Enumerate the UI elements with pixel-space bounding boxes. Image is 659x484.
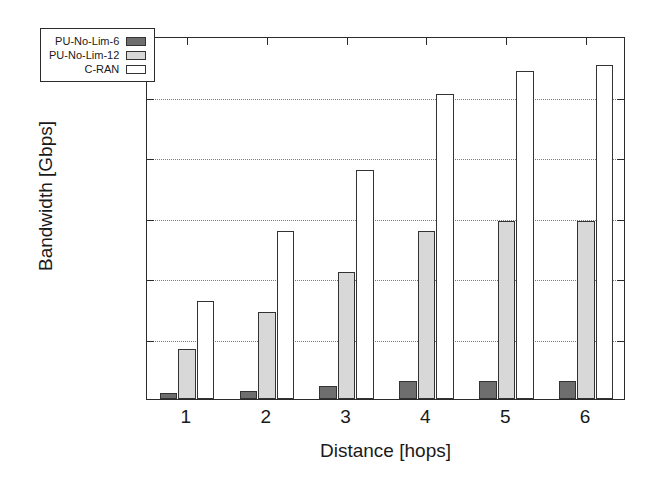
bar bbox=[516, 71, 534, 399]
y-axis-title: Bandwidth [Gbps] bbox=[35, 76, 57, 316]
y-axis-tick bbox=[147, 159, 154, 160]
bar bbox=[418, 231, 436, 399]
x-axis-tick bbox=[426, 38, 427, 45]
x-axis-tick-label: 5 bbox=[475, 406, 535, 428]
y-axis-tick bbox=[147, 280, 154, 281]
legend-swatch-icon bbox=[126, 65, 146, 74]
legend-swatch-icon bbox=[126, 37, 146, 46]
bar bbox=[596, 65, 614, 399]
y-axis-tick bbox=[617, 341, 624, 342]
legend-swatch-icon bbox=[126, 51, 146, 60]
gridline bbox=[147, 159, 624, 160]
bar bbox=[498, 221, 516, 399]
x-axis-tick-label: 1 bbox=[156, 406, 216, 428]
bar bbox=[338, 272, 356, 399]
bar bbox=[240, 391, 258, 399]
x-axis-tick bbox=[187, 38, 188, 45]
y-axis-tick bbox=[617, 99, 624, 100]
x-axis-tick bbox=[586, 38, 587, 45]
bar bbox=[577, 221, 595, 399]
gridline bbox=[147, 341, 624, 342]
y-axis-tick bbox=[147, 341, 154, 342]
gridline bbox=[147, 99, 624, 100]
legend-item: C-RAN bbox=[49, 62, 146, 76]
x-axis-tick bbox=[267, 38, 268, 45]
bar bbox=[160, 393, 178, 399]
x-axis-tick-label: 2 bbox=[236, 406, 296, 428]
bar bbox=[319, 386, 337, 399]
bar bbox=[479, 381, 497, 399]
bar bbox=[559, 381, 577, 399]
y-axis-tick bbox=[617, 220, 624, 221]
x-axis-tick-label: 4 bbox=[395, 406, 455, 428]
x-axis-tick-label: 3 bbox=[316, 406, 376, 428]
bar bbox=[277, 231, 295, 399]
legend-label: C-RAN bbox=[84, 62, 119, 76]
bar bbox=[356, 170, 374, 399]
chart-legend: PU-No-Lim-6 PU-No-Lim-12 C-RAN bbox=[40, 28, 155, 82]
y-axis-tick bbox=[147, 220, 154, 221]
gridline bbox=[147, 280, 624, 281]
bar-chart-figure: Bandwidth [Gbps] 05000100001500020000250… bbox=[0, 0, 659, 484]
bar bbox=[258, 312, 276, 399]
legend-item: PU-No-Lim-6 bbox=[49, 34, 146, 48]
x-axis-title: Distance [hops] bbox=[146, 440, 625, 462]
bar bbox=[399, 381, 417, 399]
y-axis-tick bbox=[617, 159, 624, 160]
plot-area: 050001000015000200002500030000 bbox=[146, 37, 625, 400]
bar bbox=[436, 94, 454, 399]
bar bbox=[178, 349, 196, 399]
bar bbox=[197, 301, 215, 399]
legend-label: PU-No-Lim-6 bbox=[55, 34, 119, 48]
x-axis-tick bbox=[506, 38, 507, 45]
legend-item: PU-No-Lim-12 bbox=[49, 48, 146, 62]
y-axis-tick bbox=[147, 99, 154, 100]
legend-label: PU-No-Lim-12 bbox=[49, 48, 119, 62]
x-axis-tick bbox=[347, 38, 348, 45]
y-axis-tick bbox=[617, 280, 624, 281]
x-axis-tick-label: 6 bbox=[555, 406, 615, 428]
gridline bbox=[147, 220, 624, 221]
